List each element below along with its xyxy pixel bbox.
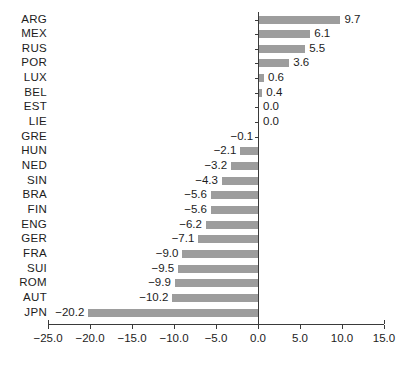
x-tick [300,325,301,329]
category-tick [255,122,258,123]
bar-aut [172,294,258,302]
x-tick [90,325,91,329]
value-label-fin: −5.6 [0,203,207,215]
bar-hun [240,147,258,155]
category-tick [255,20,258,21]
category-label-arg: ARG [0,13,47,25]
bar-jpn [88,309,258,317]
category-label-est: EST [0,100,47,112]
value-label-bel: 0.4 [266,86,282,98]
category-tick [255,107,258,108]
bar-bel [259,89,262,97]
bar-arg [259,16,340,24]
x-tick [216,325,217,329]
value-label-est: 0.0 [263,100,279,112]
bar-lux [259,74,264,82]
category-tick [255,93,258,94]
x-tick [384,325,385,329]
x-axis-cap-right [384,320,385,324]
x-tick [48,325,49,329]
value-label-sin: −4.3 [0,174,218,186]
value-label-fra: −9.0 [0,247,178,259]
category-label-por: POR [0,56,47,68]
value-label-eng: −6.2 [0,218,202,230]
bar-eng [206,221,258,229]
x-tick [342,325,343,329]
value-label-lux: 0.6 [268,71,284,83]
x-tick [258,325,259,329]
value-label-ned: −3.2 [0,159,227,171]
bar-ger [198,235,258,243]
bar-chart: ARG9.7MEX6.1RUS5.5POR3.6LUX0.6BEL0.4EST0… [0,0,408,369]
value-label-rus: 5.5 [309,42,325,54]
category-tick [255,49,258,50]
value-label-hun: −2.1 [0,144,236,156]
bar-rom [175,279,258,287]
bar-por [259,59,289,67]
x-tick [174,325,175,329]
x-tick-label: 15.0 [354,332,408,344]
category-label-bel: BEL [0,86,47,98]
value-label-gre: −0.1 [0,130,253,142]
value-label-sui: −9.5 [0,262,174,274]
value-label-arg: 9.7 [344,13,360,25]
bar-bra [211,191,258,199]
value-label-por: 3.6 [293,56,309,68]
value-label-jpn: −20.2 [0,306,84,318]
category-tick [255,63,258,64]
plot-area: ARG9.7MEX6.1RUS5.5POR3.6LUX0.6BEL0.4EST0… [0,0,408,369]
value-label-bra: −5.6 [0,188,207,200]
category-label-lux: LUX [0,71,47,83]
value-label-lie: 0.0 [263,115,279,127]
category-tick [255,137,258,138]
x-tick [132,325,133,329]
bar-fra [182,250,258,258]
bar-ned [231,162,258,170]
category-label-lie: LIE [0,115,47,127]
category-tick [255,34,258,35]
category-label-rus: RUS [0,42,47,54]
value-label-mex: 6.1 [314,27,330,39]
bar-sin [222,177,258,185]
bar-fin [211,206,258,214]
category-label-mex: MEX [0,27,47,39]
bar-rus [259,45,305,53]
value-label-rom: −9.9 [0,276,171,288]
x-axis-cap-left [48,320,49,324]
bar-mex [259,30,310,38]
value-label-aut: −10.2 [0,291,168,303]
zero-axis-line [258,12,259,325]
category-tick [255,78,258,79]
bar-sui [178,265,258,273]
value-label-ger: −7.1 [0,232,194,244]
